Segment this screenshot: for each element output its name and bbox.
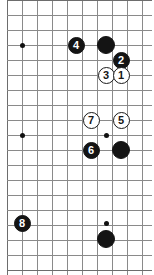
stone-white-3[interactable]: 3: [98, 67, 115, 84]
stone-move-number: 4: [69, 38, 84, 53]
stone-white-1[interactable]: 1: [113, 67, 130, 84]
go-board-diagram: 42317568: [0, 0, 154, 275]
stone-move-number: 6: [84, 143, 99, 158]
stone-move-number: 5: [114, 113, 129, 128]
stone-black-4[interactable]: 4: [68, 37, 85, 54]
stone-black-8[interactable]: 8: [14, 215, 31, 232]
board-stones[interactable]: 42317568: [0, 0, 154, 275]
stone-move-number: 2: [114, 53, 129, 68]
stone-move-number: 8: [15, 216, 30, 231]
stone-white-7[interactable]: 7: [83, 112, 100, 129]
stone-move-number: 3: [99, 68, 114, 83]
stone-move-number: 7: [84, 113, 99, 128]
stone-black-unnumbered-middle[interactable]: [112, 141, 130, 159]
stone-black-unnumbered-bottom[interactable]: [97, 230, 115, 248]
stone-black-unnumbered-top[interactable]: [97, 36, 115, 54]
stone-white-5[interactable]: 5: [113, 112, 130, 129]
stone-black-2[interactable]: 2: [113, 52, 130, 69]
stone-black-6[interactable]: 6: [83, 142, 100, 159]
stone-move-number: 1: [114, 68, 129, 83]
